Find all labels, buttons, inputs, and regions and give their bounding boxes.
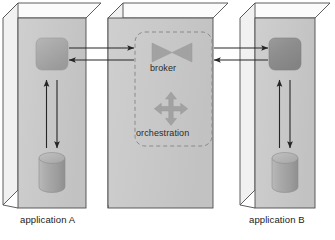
caption-application-b: application B <box>249 215 305 225</box>
diagram-canvas: application A application B broker orche… <box>0 0 335 240</box>
cylinder-top-b <box>272 153 298 164</box>
panel-application-b[interactable] <box>240 3 330 208</box>
box-top-face-mid <box>108 3 228 18</box>
caption-application-a: application A <box>20 215 75 225</box>
database-b[interactable] <box>272 153 298 193</box>
app-module-a[interactable] <box>36 38 68 70</box>
label-orchestration: orchestration <box>136 129 189 138</box>
cylinder-top-a <box>39 153 65 164</box>
panel-application-a[interactable] <box>3 3 101 208</box>
box-side-face-b <box>240 3 255 205</box>
box-bottom-edge-b <box>240 205 255 208</box>
app-module-b[interactable] <box>269 38 301 70</box>
architecture-diagram-svg <box>0 0 335 240</box>
label-broker: broker <box>150 64 176 73</box>
database-a[interactable] <box>39 153 65 193</box>
panel-middleware[interactable] <box>108 3 228 208</box>
box-side-face-a <box>3 3 18 205</box>
box-bottom-edge-a <box>3 205 18 208</box>
